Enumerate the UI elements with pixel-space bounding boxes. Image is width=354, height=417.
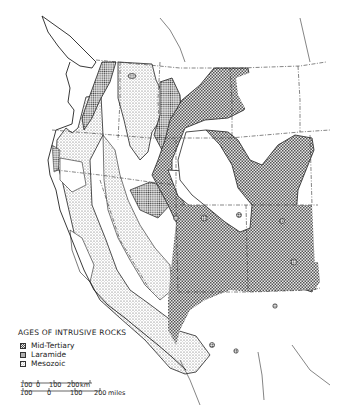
laramide-swatch-icon (20, 352, 26, 358)
scale-km-tick: 0 (36, 381, 40, 389)
scale-km-unit: km (80, 381, 90, 389)
mesozoic-swatch-icon (20, 361, 26, 367)
scale-miles-tick: 100 (20, 389, 32, 397)
legend-label: Laramide (31, 350, 66, 359)
legend-label: Mesozoic (31, 359, 65, 368)
scale-miles-unit: miles (108, 389, 125, 397)
legend-title: AGES OF INTRUSIVE ROCKS (18, 328, 126, 337)
mid-tertiary-swatch-icon (20, 343, 26, 349)
scale-km-tick: 100 (20, 381, 32, 389)
scale-miles-tick: 200 (94, 389, 106, 397)
legend-label: Mid-Tertiary (31, 341, 74, 350)
scale-km-tick: 100 (49, 381, 61, 389)
legend-item-laramide: Laramide (20, 350, 126, 359)
scale-miles-tick: 100 (70, 389, 82, 397)
scale-km-tick: 200 (67, 381, 79, 389)
scale-miles-tick: 0 (47, 389, 51, 397)
scale-bar: 100 0 100 200 km 100 0 100 200 miles (20, 376, 160, 398)
legend-item-mid-tertiary: Mid-Tertiary (20, 341, 126, 350)
legend: AGES OF INTRUSIVE ROCKS Mid-Tertiary Lar… (18, 328, 126, 368)
legend-item-mesozoic: Mesozoic (20, 359, 126, 368)
